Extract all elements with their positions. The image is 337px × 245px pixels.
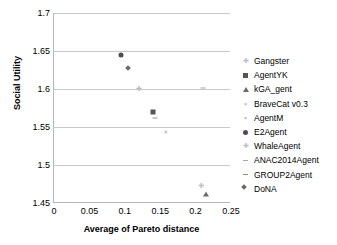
gridline-y [54, 165, 230, 166]
square-marker-icon [240, 70, 251, 81]
data-point-kga-gent [203, 191, 209, 196]
x-tick-label: 0 [34, 206, 74, 216]
dash-dark-marker-icon [240, 169, 251, 180]
x-tick-label: 0.25 [211, 206, 251, 216]
gridline-y [54, 127, 230, 128]
scatter-chart: Social Utility 1.451.51.551.61.651.700.0… [0, 0, 337, 245]
legend-item-whaleagent[interactable]: ✚WhaleAgent [240, 139, 337, 153]
plus-marker-icon: ✚ [240, 56, 251, 67]
cross-marker-icon: × [240, 112, 251, 123]
x-tick-label: 0.15 [140, 206, 180, 216]
data-point-anac2014agent [200, 88, 205, 89]
cross-marker-icon: × [240, 98, 251, 109]
triangle-marker-icon [240, 84, 251, 95]
legend-item-label: GROUP2Agent [254, 170, 312, 180]
legend-item-agentyk[interactable]: AgentYK [240, 68, 337, 82]
x-tick-label: 0.2 [176, 206, 216, 216]
legend-item-agentm[interactable]: ×AgentM [240, 111, 337, 125]
y-tick-label: 1.5 [10, 160, 50, 170]
y-tick-label: 1.6 [10, 84, 50, 94]
legend-item-label: E2Agent [254, 127, 287, 137]
legend-item-label: DoNA [254, 184, 277, 194]
data-point-whaleagent: ✚ [136, 86, 142, 93]
legend-item-anac2014agent[interactable]: ANAC2014Agent [240, 153, 337, 167]
data-point-dona [125, 66, 131, 72]
gridline-y [54, 51, 230, 52]
legend-item-group2agent[interactable]: GROUP2Agent [240, 168, 337, 182]
legend-item-label: Gangster [254, 56, 289, 66]
legend-item-gangster[interactable]: ✚Gangster [240, 54, 337, 68]
legend-item-kga-gent[interactable]: kGA_gent [240, 82, 337, 96]
diamond-marker-icon [240, 183, 251, 194]
data-point-e2agent [119, 52, 124, 57]
legend-item-bravecat-v0-3[interactable]: ×BraveCat v0.3 [240, 97, 337, 111]
x-axis-title: Average of Pareto distance [53, 224, 230, 234]
plus-marker-icon: ✚ [240, 141, 251, 152]
legend-item-label: AgentYK [254, 70, 288, 80]
legend-item-label: kGA_gent [254, 84, 292, 94]
plot-area: 1.451.51.551.61.651.700.050.10.150.20.25… [53, 13, 230, 203]
gridline-y [54, 13, 230, 14]
data-point-bravecat-v0-3: × [163, 129, 168, 135]
dash-marker-icon [240, 155, 251, 166]
circle-marker-icon [240, 127, 251, 138]
x-tick-label: 0.1 [105, 206, 145, 216]
legend-item-e2agent[interactable]: E2Agent [240, 125, 337, 139]
y-tick-label: 1.65 [10, 46, 50, 56]
legend-item-label: WhaleAgent [254, 141, 300, 151]
y-tick-label: 1.7 [10, 8, 50, 18]
legend-item-dona[interactable]: DoNA [240, 182, 337, 196]
data-point-group2agent [153, 117, 158, 118]
y-tick-label: 1.55 [10, 122, 50, 132]
data-point-agentyk [151, 109, 156, 114]
legend-item-label: AgentM [254, 113, 283, 123]
legend-item-label: ANAC2014Agent [254, 155, 319, 165]
data-point-gangster: ✚ [198, 182, 204, 189]
legend-item-label: BraveCat v0.3 [254, 99, 308, 109]
x-tick-label: 0.05 [69, 206, 109, 216]
chart-legend: ✚GangsterAgentYKkGA_gent×BraveCat v0.3×A… [240, 54, 337, 196]
